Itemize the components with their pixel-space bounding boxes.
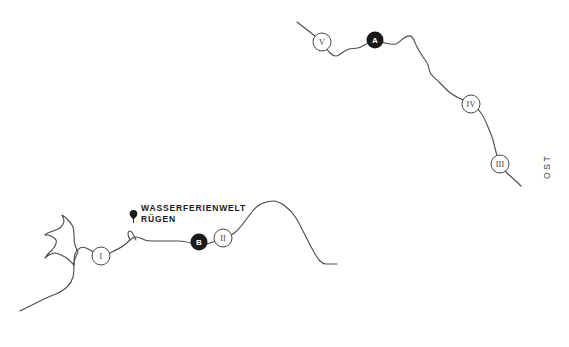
direction-label-ost: OST xyxy=(542,154,552,179)
map-canvas: V A IV III I B II xyxy=(0,0,569,347)
marker-i-label: I xyxy=(100,252,103,261)
coastline-island-detail xyxy=(45,215,78,265)
marker-iv-label: IV xyxy=(467,100,476,109)
map-marker-b[interactable]: B xyxy=(191,234,208,251)
marker-b-label: B xyxy=(196,238,202,247)
marker-ii-label: II xyxy=(220,234,226,243)
map-marker-i[interactable]: I xyxy=(92,247,110,265)
marker-iii-label: III xyxy=(496,160,505,169)
map-illustration: V A IV III I B II xyxy=(0,0,569,347)
marker-a-label: A xyxy=(372,36,378,45)
map-pin-icon-glyph xyxy=(129,210,138,223)
marker-v-label: V xyxy=(319,38,325,47)
place-label-line-1: WASSERFERIENWELT xyxy=(141,203,246,214)
coastline-northeast xyxy=(297,22,521,186)
map-marker-iv[interactable]: IV xyxy=(462,95,480,113)
map-marker-a[interactable]: A xyxy=(367,32,384,49)
map-marker-iii[interactable]: III xyxy=(491,155,509,173)
map-pin-icon xyxy=(129,209,138,227)
map-marker-v[interactable]: V xyxy=(313,33,331,51)
map-marker-ii[interactable]: II xyxy=(214,229,232,247)
place-label-line-2: RÜGEN xyxy=(141,214,246,225)
place-label-wasserferienwelt-ruegen: WASSERFERIENWELT RÜGEN xyxy=(141,203,246,224)
